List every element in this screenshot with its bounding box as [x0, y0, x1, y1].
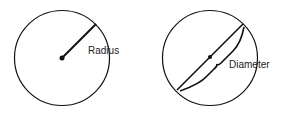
center-point [60, 56, 65, 61]
radius-label: Radius [88, 45, 119, 56]
center-point [208, 55, 212, 59]
diameter-figure: Diameter [163, 11, 271, 106]
diameter-label: Diameter [229, 59, 270, 70]
circle-diagram: Radius Diameter [0, 0, 285, 115]
radius-figure: Radius [15, 11, 120, 106]
